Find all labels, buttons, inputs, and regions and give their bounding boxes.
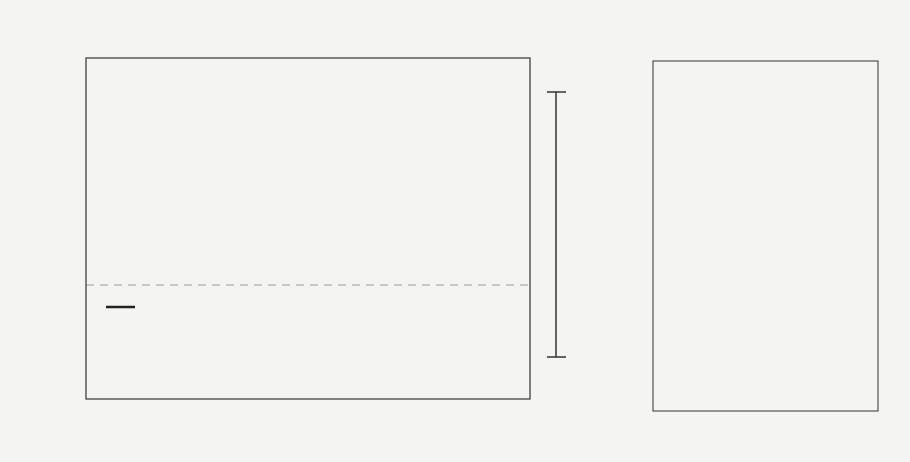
figure-canvas — [0, 0, 910, 462]
full-range-bar — [547, 92, 566, 357]
energy-accumulation-chart — [653, 61, 878, 411]
left-plot-frame — [86, 58, 530, 399]
figure — [0, 0, 910, 462]
co2-emissions-chart — [0, 0, 566, 399]
right-plot-frame — [653, 61, 878, 411]
